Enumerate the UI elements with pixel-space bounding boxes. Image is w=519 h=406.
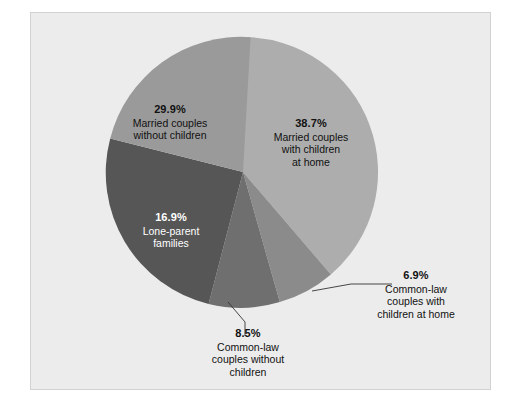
pie-label-line-2: families <box>118 237 224 249</box>
pie-label-line-2: with children <box>252 143 370 155</box>
pie-label-line-3: children <box>186 366 310 378</box>
pie-label-commonlaw-without-children: 8.5% Common-law couples without children <box>186 327 310 378</box>
pie-label-line-1: Married couples <box>252 131 370 143</box>
pie-label-commonlaw-with-children: 6.9% Common-law couples with children at… <box>358 269 474 320</box>
pie-label-line-1: Married couples <box>108 117 232 129</box>
pie-chart-figure: 38.7% Married couples with children at h… <box>0 0 519 406</box>
pie-label-line-2: couples without <box>186 353 310 365</box>
pie-label-percent: 16.9% <box>118 211 224 224</box>
pie-label-line-3: at home <box>252 156 370 168</box>
pie-label-lone-parent-families: 16.9% Lone-parent families <box>118 211 224 250</box>
pie-label-married-without-children: 29.9% Married couples without children <box>108 103 232 142</box>
pie-label-married-with-children: 38.7% Married couples with children at h… <box>252 117 370 168</box>
pie-label-line-2: couples with <box>358 295 474 307</box>
pie-label-percent: 29.9% <box>108 103 232 116</box>
pie-label-line-2: without children <box>108 129 232 141</box>
pie-label-line-1: Common-law <box>186 341 310 353</box>
pie-label-percent: 8.5% <box>186 327 310 340</box>
pie-label-line-3: children at home <box>358 308 474 320</box>
pie-label-line-1: Common-law <box>358 283 474 295</box>
pie-label-line-1: Lone-parent <box>118 225 224 237</box>
pie-label-percent: 6.9% <box>358 269 474 282</box>
pie-label-percent: 38.7% <box>252 117 370 130</box>
